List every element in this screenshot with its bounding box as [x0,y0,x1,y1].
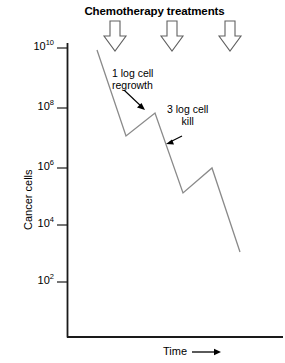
y-tick-base-10e4: 10 [38,217,50,229]
annotation-regrowth: 1 log cell regrowth [112,68,153,92]
y-tick-exp-10e2: 2 [50,272,54,281]
treatment-arrow-2-icon [161,21,183,51]
regrowth-annotation-arrow-icon [124,90,145,110]
y-tick-base-10e6: 10 [38,160,50,172]
y-tick-label-10e8: 108 [8,101,54,112]
chart-figure: Chemotherapy treatments [0,0,285,363]
y-tick-label-10e2: 102 [8,275,54,286]
annotation-regrowth-line1: 1 log cell [112,68,153,80]
kill-annotation-arrow-icon [166,136,182,145]
y-tick-base-10e10: 10 [33,40,45,52]
time-arrow-icon [192,349,221,355]
y-tick-exp-10e8: 8 [50,98,54,107]
y-tick-base-10e8: 10 [38,100,50,112]
y-tick-exp-10e6: 6 [50,158,54,167]
treatment-arrow-1-icon [104,21,126,51]
annotation-regrowth-line2: regrowth [112,80,153,92]
y-axis-title: Cancer cells [22,169,34,230]
y-tick-exp-10e10: 10 [46,38,54,47]
chart-plot-area [0,0,285,363]
y-tick-exp-10e4: 4 [50,215,54,224]
treatment-arrow-3-icon [219,21,241,51]
x-axis-title: Time [163,345,187,357]
y-tick-base-10e2: 10 [38,274,50,286]
annotation-kill: 3 log cell kill [167,104,208,128]
annotation-kill-line1: 3 log cell [167,104,208,116]
y-tick-label-10e10: 1010 [8,41,54,52]
annotation-kill-line2: kill [167,116,208,128]
